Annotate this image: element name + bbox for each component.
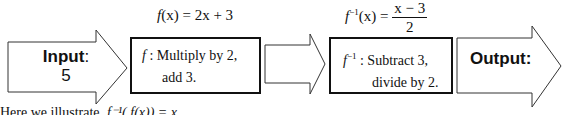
function-step-1: Multiply by 2,: [157, 48, 238, 63]
inverse-formula: f−1(x) = x − 3 2: [345, 1, 427, 35]
inverse-box-text: f−1 : Subtract 3, divide by 2.: [343, 45, 439, 94]
output-arrow-label: Output:: [470, 49, 531, 69]
function-step-2: add 3.: [142, 70, 196, 85]
function-formula: f(x) = 2x + 3: [157, 7, 233, 24]
inverse-step-2: divide by 2.: [343, 75, 439, 90]
input-arrow-label: Input: 5: [26, 47, 106, 85]
function-box-text: f : Multiply by 2, add 3.: [142, 45, 237, 89]
inverse-fraction: x − 3 2: [392, 1, 427, 35]
caption: Here we illustrate f⁻¹( f(x)) = x: [0, 104, 177, 115]
input-label: Input: [43, 47, 85, 66]
function-inverse-diagram: Input: 5 f(x) = 2x + 3 f : Multiply by 2…: [0, 0, 562, 115]
function-symbol: f: [142, 48, 146, 63]
input-colon: :: [84, 47, 89, 66]
inverse-step-1: Subtract 3,: [367, 53, 428, 68]
input-value: 5: [61, 66, 70, 85]
connector-arrow-shape: [265, 34, 325, 94]
